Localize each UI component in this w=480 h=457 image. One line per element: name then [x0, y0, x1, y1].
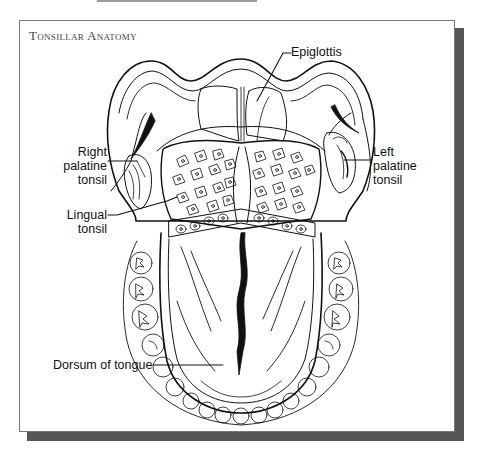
tooth: [251, 407, 267, 423]
left-palatine-tonsil: [324, 132, 356, 193]
lingual-tonsil-region: [161, 141, 321, 229]
label-lingual-tonsil: Lingual tonsil: [48, 208, 107, 236]
label-line: palatine: [48, 159, 107, 173]
label-line: Lingual: [48, 208, 107, 222]
label-right-palatine-tonsil: Right palatine tonsil: [48, 145, 107, 187]
right-black-wedge: [131, 113, 155, 159]
median-sulcus: [237, 233, 247, 375]
tooth: [153, 357, 173, 377]
label-line: tonsil: [373, 173, 417, 187]
tooth: [309, 357, 329, 377]
tooth: [130, 252, 152, 274]
tooth: [233, 408, 249, 424]
tooth: [318, 334, 340, 356]
label-line: tonsil: [48, 222, 107, 236]
label-line: palatine: [373, 159, 417, 173]
epiglottis-shape: [198, 86, 239, 141]
label-line: tonsil: [48, 173, 107, 187]
label-line: Right: [48, 145, 107, 159]
tooth: [267, 402, 283, 418]
label-dorsum-of-tongue: Dorsum of tongue: [53, 358, 152, 372]
figure-frame: Tonsillar Anatomy: [19, 20, 455, 432]
top-rule: [97, 0, 257, 2]
label-line: Left: [373, 145, 417, 159]
tooth: [142, 334, 164, 356]
label-epiglottis: Epiglottis: [291, 45, 342, 59]
left-black-wedge: [331, 105, 359, 133]
tooth: [328, 252, 350, 274]
tooth: [199, 402, 215, 418]
tooth: [215, 407, 231, 423]
label-left-palatine-tonsil: Left palatine tonsil: [373, 145, 417, 187]
